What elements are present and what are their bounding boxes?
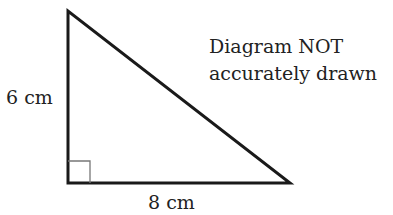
right-angle-marker	[68, 161, 90, 183]
diagram-canvas: 6 cm 8 cm Diagram NOT accurately drawn	[0, 0, 393, 215]
horizontal-side-label: 8 cm	[148, 191, 195, 213]
accuracy-note-line-2: accurately drawn	[209, 60, 377, 87]
accuracy-note: Diagram NOT accurately drawn	[209, 33, 377, 87]
vertical-side-label: 6 cm	[6, 86, 53, 108]
accuracy-note-line-1: Diagram NOT	[209, 33, 377, 60]
